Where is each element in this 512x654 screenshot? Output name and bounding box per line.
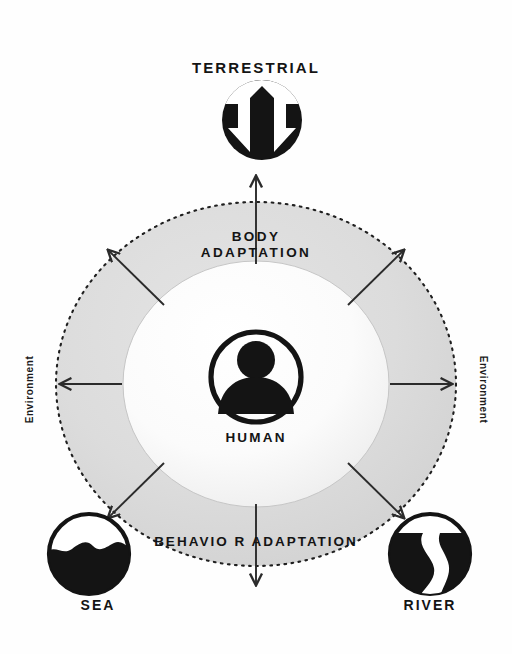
terrestrial-icon[interactable] bbox=[222, 80, 302, 160]
terrestrial-label: TERRESTRIAL bbox=[0, 59, 512, 77]
behavior-adaptation-label: BEHAVIO R ADAPTATION bbox=[0, 534, 512, 550]
environment-label-right: Environment bbox=[478, 347, 489, 433]
river-icon[interactable] bbox=[388, 514, 472, 596]
body-adaptation-label: BODYADAPTATION bbox=[0, 229, 512, 261]
human-icon-head bbox=[237, 341, 275, 379]
environment-label-left: Environment bbox=[24, 347, 35, 433]
diagram-canvas: TERRESTRIAL SEA RIVER HUMAN BODYADAPTATI… bbox=[0, 0, 512, 654]
sea-icon[interactable] bbox=[46, 514, 134, 600]
body-adaptation-line-1: BODY bbox=[232, 229, 281, 244]
adaptation-diagram bbox=[0, 0, 512, 654]
river-label: RIVER bbox=[375, 597, 485, 614]
sea-icon-glyph bbox=[46, 542, 134, 600]
sea-label: SEA bbox=[43, 597, 153, 614]
human-label: HUMAN bbox=[0, 430, 512, 446]
body-adaptation-line-2: ADAPTATION bbox=[201, 245, 312, 260]
sea-icon-water bbox=[46, 542, 134, 600]
